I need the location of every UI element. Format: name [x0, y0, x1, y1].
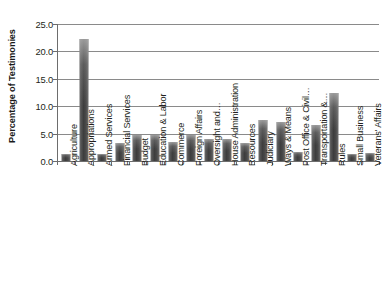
- y-axis-tick-label: 20.0: [36, 46, 53, 57]
- x-axis-tick-label-text: Ways & Means: [284, 107, 293, 166]
- y-axis-tick-mark: [53, 79, 58, 80]
- x-axis-tick-label-text: Commerce: [177, 123, 186, 166]
- x-axis-tick-label-text: Veterans' Affairs: [374, 103, 383, 166]
- x-axis-tick-mark: [57, 161, 58, 165]
- y-axis-tick-mark: [53, 24, 58, 25]
- y-axis-tick-label: 0.0: [41, 156, 53, 167]
- x-axis-tick-label-text: Resources: [248, 124, 257, 166]
- y-axis-tick-mark: [53, 51, 58, 52]
- x-axis-tick-label-text: Armed Services: [105, 104, 114, 166]
- x-axis-tick-label-text: Education & Labor: [159, 94, 168, 166]
- x-axis-tick-label-text: Agriculture: [70, 124, 79, 166]
- y-axis-title: Percentage of Testimonies: [0, 0, 24, 172]
- y-axis-tick-label: 15.0: [36, 73, 53, 84]
- x-axis-tick-label: Veterans' Affairs: [374, 166, 384, 286]
- y-axis-tick-label: 25.0: [36, 19, 53, 30]
- y-axis-tick-label: 10.0: [36, 101, 53, 112]
- x-axis-tick-labels: AgricultureAppropriationsArmed ServicesF…: [57, 166, 379, 290]
- x-axis-tick-label-text: Foreign Affairs: [195, 110, 204, 166]
- y-axis-title-text: Percentage of Testimonies: [7, 29, 17, 143]
- x-axis-tick-label-text: Oversight and…: [213, 102, 222, 166]
- x-axis-tick-label-text: House Administration: [231, 83, 240, 166]
- bar-chart-figure: Percentage of Testimonies 25.020.015.010…: [0, 0, 384, 293]
- y-axis-tick-label: 5.0: [41, 128, 53, 139]
- x-axis-tick-label-text: Judiciary: [266, 131, 275, 166]
- x-axis-tick-label-text: Financial Services: [123, 95, 132, 166]
- y-axis-tick-labels: 25.020.015.010.05.00.0: [22, 18, 56, 164]
- x-axis-tick-label-text: Small Business: [356, 106, 365, 166]
- x-axis-tick-label-text: Budget: [141, 138, 150, 166]
- x-axis-tick-label-text: Post Office & Civil…: [302, 87, 311, 166]
- y-axis-tick-mark: [53, 106, 58, 107]
- x-axis-tick-label-text: Appropriations: [87, 109, 96, 166]
- x-axis-tick-label-text: Transportation &…: [320, 93, 329, 166]
- x-axis-tick-label-text: Rules: [338, 144, 347, 167]
- y-axis-tick-mark: [53, 134, 58, 135]
